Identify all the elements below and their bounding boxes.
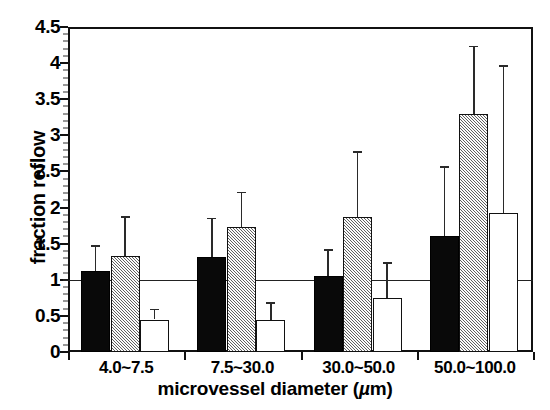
y-minor-tick (63, 323, 68, 324)
y-minor-tick (63, 214, 68, 215)
y-minor-tick (63, 279, 68, 280)
y-minor-tick (63, 92, 68, 93)
error-bar-cap (266, 302, 275, 304)
error-bar-stem (444, 166, 446, 236)
x-group-label: 30.0~50.0 (322, 358, 395, 378)
bar-open-white-50.0~100.0 (489, 213, 518, 352)
y-minor-tick (63, 272, 68, 273)
y-tick-mark (60, 134, 68, 136)
y-minor-tick (63, 258, 68, 259)
error-bar-stem (241, 192, 243, 227)
x-group-label: 4.0~7.5 (99, 358, 153, 378)
error-bar-stem (386, 262, 388, 297)
x-tick-mark (533, 352, 535, 360)
error-bar-stem (124, 216, 126, 256)
y-tick-label: 4 (50, 52, 60, 74)
error-bar-stem (154, 309, 156, 320)
error-bar-cap (383, 262, 392, 264)
error-bar-stem (327, 249, 329, 276)
x-axis-title-text: microvessel diameter ( (157, 378, 359, 399)
bar-open-white-4.0~7.5 (140, 320, 169, 353)
bar-solid-black-30.0~50.0 (314, 276, 343, 352)
y-minor-tick (63, 84, 68, 85)
x-tick-mark (417, 352, 419, 360)
y-minor-tick (63, 34, 68, 35)
error-bar-cap (121, 216, 130, 218)
y-minor-tick (63, 330, 68, 331)
y-minor-tick (63, 308, 68, 309)
error-bar-cap (440, 166, 449, 168)
y-minor-tick (63, 200, 68, 201)
x-tick-mark (301, 352, 303, 360)
x-axis-title: microvessel diameter (µm) (0, 378, 550, 400)
error-bar-cap (469, 46, 478, 48)
x-axis-unit-mu: µ (359, 378, 370, 399)
y-axis-title: fraction reflow (27, 98, 50, 298)
y-minor-tick (63, 185, 68, 186)
error-bar-stem (270, 302, 272, 320)
x-group-label: 50.0~100.0 (434, 358, 516, 378)
y-minor-tick (63, 193, 68, 194)
y-tick-mark (60, 315, 68, 317)
error-bar-cap (237, 192, 246, 194)
y-minor-tick (63, 236, 68, 237)
y-minor-tick (63, 113, 68, 114)
error-bar-cap (207, 218, 216, 220)
y-minor-tick (63, 178, 68, 179)
error-bar-cap (150, 309, 159, 311)
bar-chart: 00.511.522.533.544.5 fraction reflow 4.0… (0, 0, 550, 410)
y-minor-tick (63, 250, 68, 251)
x-tick-mark (184, 352, 186, 360)
y-minor-tick (63, 120, 68, 121)
error-bar-stem (473, 46, 475, 114)
bar-open-white-30.0~50.0 (373, 298, 402, 352)
y-minor-tick (63, 128, 68, 129)
bar-hatched-gray-30.0~50.0 (343, 217, 372, 352)
x-tick-mark (68, 352, 70, 360)
y-tick-mark (60, 170, 68, 172)
error-bar-stem (503, 65, 505, 213)
y-tick-label: 3 (50, 124, 60, 146)
error-bar-cap (499, 65, 508, 67)
y-tick-label: 2 (50, 197, 60, 219)
y-tick-mark (60, 98, 68, 100)
y-tick-label: 4.5 (35, 16, 60, 38)
y-minor-tick (63, 287, 68, 288)
y-tick-label: 0.5 (35, 305, 60, 327)
y-minor-tick (63, 337, 68, 338)
y-minor-tick (63, 222, 68, 223)
bar-solid-black-50.0~100.0 (430, 236, 459, 352)
y-minor-tick (63, 70, 68, 71)
y-minor-tick (63, 48, 68, 49)
y-tick-label: 0 (50, 341, 60, 363)
y-minor-tick (63, 149, 68, 150)
y-minor-tick (63, 77, 68, 78)
bar-hatched-gray-7.5~30.0 (227, 227, 256, 352)
bar-hatched-gray-50.0~100.0 (459, 114, 488, 352)
y-minor-tick (63, 41, 68, 42)
y-minor-tick (63, 344, 68, 345)
error-bar-stem (357, 151, 359, 217)
error-bar-cap (353, 151, 362, 153)
y-tick-label: 1 (50, 269, 60, 291)
error-bar-cap (324, 249, 333, 251)
x-axis-title-tail: m) (370, 378, 393, 399)
y-minor-tick (63, 164, 68, 165)
y-minor-tick (63, 55, 68, 56)
error-bar-stem (211, 218, 213, 258)
error-bar-cap (91, 245, 100, 247)
y-tick-mark (60, 351, 68, 353)
x-group-label: 7.5~30.0 (211, 358, 274, 378)
y-minor-tick (63, 229, 68, 230)
y-minor-tick (63, 294, 68, 295)
bar-solid-black-4.0~7.5 (81, 271, 110, 352)
y-minor-tick (63, 265, 68, 266)
y-minor-tick (63, 157, 68, 158)
y-tick-mark (60, 26, 68, 28)
y-minor-tick (63, 142, 68, 143)
bar-hatched-gray-4.0~7.5 (111, 256, 140, 352)
y-minor-tick (63, 301, 68, 302)
y-tick-mark (60, 243, 68, 245)
error-bar-stem (95, 245, 97, 271)
bar-solid-black-7.5~30.0 (197, 257, 226, 352)
